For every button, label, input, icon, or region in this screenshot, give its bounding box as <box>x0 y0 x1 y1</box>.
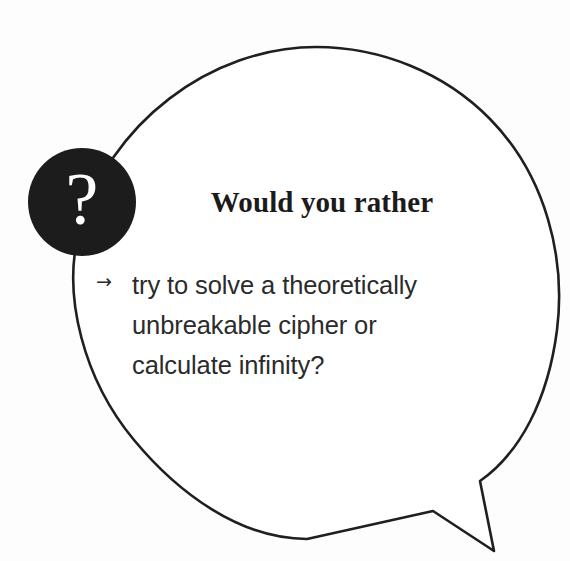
page-title: Would you rather <box>96 186 496 219</box>
arrow-right-icon: → <box>96 265 132 298</box>
question-mark-icon: ? <box>66 162 99 236</box>
prompt-row: → try to solve a theoretically unbreakab… <box>96 265 496 385</box>
bubble-content: Would you rather → try to solve a theore… <box>96 186 496 385</box>
prompt-text: try to solve a theoretically unbreakable… <box>132 265 450 385</box>
would-you-rather-card: ? Would you rather → try to solve a theo… <box>0 0 570 561</box>
